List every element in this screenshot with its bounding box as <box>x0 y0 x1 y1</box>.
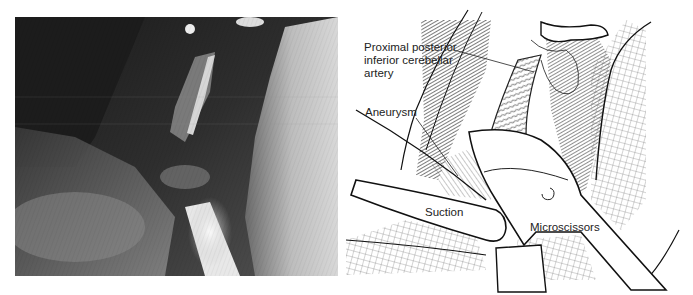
label-pica-line1: Proximal posterior <box>364 41 457 54</box>
surgical-illustration: Proximal posterior inferior cerebellar a… <box>346 0 693 295</box>
label-pica-line2: inferior cerebellar <box>364 54 457 67</box>
surgical-photo-graphic <box>15 17 338 276</box>
label-aneurysm: Aneurysm <box>365 106 417 119</box>
label-microscissors: Microscissors <box>530 221 600 234</box>
label-pica-line3: artery <box>364 67 457 80</box>
surgical-photo <box>15 17 338 276</box>
label-suction: Suction <box>425 206 463 219</box>
label-pica: Proximal posterior inferior cerebellar a… <box>364 41 457 80</box>
